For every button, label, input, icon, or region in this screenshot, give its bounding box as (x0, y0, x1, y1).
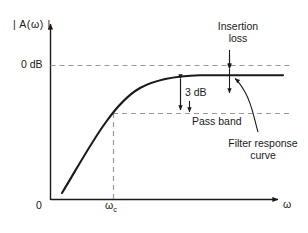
zero-db-label: 0 dB (21, 58, 43, 70)
insertion-loss-line-1: Insertion (205, 20, 271, 32)
filter-response-line-2: curve (222, 149, 304, 161)
three-db-label: 3 dB (185, 86, 207, 98)
y-axis-label: | A(ω) | (13, 18, 51, 30)
origin-label: 0 (36, 199, 42, 211)
insertion-loss-annotation: Insertion loss (205, 20, 271, 44)
filter-response-curve (62, 75, 283, 193)
cutoff-frequency-symbol: ω (105, 199, 113, 211)
pass-band-annotation: Pass band (192, 115, 242, 127)
x-axis-label: ω (283, 198, 291, 210)
insertion-loss-line-2: loss (205, 32, 271, 44)
cutoff-frequency-label: ωc (105, 199, 117, 215)
filter-response-line-1: Filter response (222, 137, 304, 149)
filter-response-diagram: | A(ω) | 0 dB 3 dB Insertion loss Pass b… (0, 0, 308, 233)
filter-response-curve-annotation: Filter response curve (222, 137, 304, 161)
cutoff-frequency-subscript: c (113, 205, 117, 214)
